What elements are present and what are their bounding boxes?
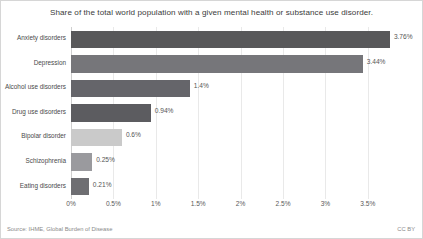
x-tick-label: 1.5% [191, 201, 206, 208]
bar-row: Schizophrenia0.25% [71, 150, 406, 175]
bar-value-label: 0.25% [96, 157, 115, 164]
category-label: Drug use disorders [12, 109, 66, 115]
category-label: Schizophrenia [25, 158, 66, 164]
bar-row: Anxiety disorders3.76% [71, 27, 406, 52]
bar-row: Depression3.44% [71, 52, 406, 77]
category-label: Eating disorders [20, 183, 66, 189]
bar [71, 129, 122, 146]
x-axis: 0%0.5%1%1.5%2%2.5%3%3.5% [71, 201, 406, 213]
category-label: Depression [34, 60, 66, 66]
bar-value-label: 0.94% [155, 108, 174, 115]
bar [71, 153, 92, 170]
bar-value-label: 3.44% [367, 59, 386, 66]
category-label: Anxiety disorders [17, 35, 66, 41]
x-tick-label: 1% [151, 201, 161, 208]
bar [71, 31, 390, 48]
x-tick-label: 0.5% [106, 201, 121, 208]
x-tick-label: 2.5% [276, 201, 291, 208]
bar-row: Alcohol use disorders1.4% [71, 76, 406, 101]
category-label: Alcohol use disorders [5, 84, 66, 90]
chart-title: Share of the total world population with… [1, 8, 422, 17]
plot-area: Anxiety disorders3.76%Depression3.44%Alc… [71, 27, 406, 199]
bar-row: Bipolar disorder0.6% [71, 125, 406, 150]
x-tick-label: 2% [236, 201, 246, 208]
bar-value-label: 1.4% [194, 83, 209, 90]
bar-row: Drug use disorders0.94% [71, 101, 406, 126]
license-note: CC BY [397, 226, 415, 232]
bar-value-label: 3.76% [394, 34, 413, 41]
x-tick-label: 3.5% [360, 201, 375, 208]
bar [71, 80, 190, 97]
bar-row: Eating disorders0.21% [71, 174, 406, 199]
bar-value-label: 0.6% [126, 132, 141, 139]
chart-container: Share of the total world population with… [0, 0, 423, 239]
x-tick-label: 3% [321, 201, 331, 208]
category-label: Bipolar disorder [21, 133, 66, 139]
bar [71, 178, 89, 195]
bar [71, 55, 363, 72]
bar [71, 104, 151, 121]
bar-value-label: 0.21% [93, 182, 112, 189]
source-note: Source: IHME, Global Burden of Disease [7, 226, 112, 232]
x-tick-label: 0% [66, 201, 76, 208]
